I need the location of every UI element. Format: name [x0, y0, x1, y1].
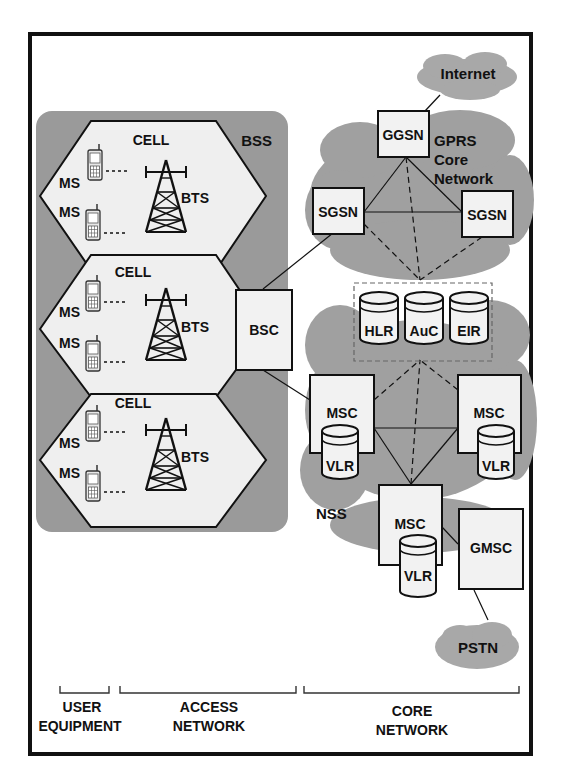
vlr-bottom-database [400, 535, 436, 597]
ms-label: MS [59, 204, 80, 220]
core-network-label-2: NETWORK [376, 722, 448, 738]
user-equipment-label-2: EQUIPMENT [38, 718, 122, 734]
gprs-label-1: GPRS [434, 132, 477, 149]
pstn-label: PSTN [458, 639, 498, 656]
ms-label: MS [59, 175, 80, 191]
internet-label: Internet [440, 65, 495, 82]
msc-right-label: MSC [473, 405, 504, 421]
vlr-bottom-label: VLR [404, 568, 432, 584]
nss-label: NSS [316, 505, 347, 522]
layer-brackets [60, 686, 519, 693]
ms-label: MS [59, 465, 80, 481]
ms-label: MS [59, 335, 80, 351]
core-network-label-1: CORE [392, 703, 432, 719]
auc-label: AuC [410, 323, 439, 339]
mobile-phone-icon [86, 204, 100, 240]
cell-label: CELL [115, 395, 152, 411]
gprs-label-2: Core [434, 151, 468, 168]
mobile-phone-icon [88, 144, 102, 180]
ms-label: MS [59, 304, 80, 320]
bts-label: BTS [181, 319, 209, 335]
ms-label: MS [59, 435, 80, 451]
hlr-label: HLR [365, 323, 394, 339]
msc-bottom-label: MSC [394, 516, 425, 532]
bss-label: BSS [241, 132, 272, 149]
vlr-right-label: VLR [482, 458, 510, 474]
bsc-label: BSC [249, 322, 279, 338]
bts-label: BTS [181, 190, 209, 206]
eir-label: EIR [457, 323, 480, 339]
ggsn-label: GGSN [382, 127, 423, 143]
mobile-phone-icon [86, 405, 100, 441]
vlr-left-label: VLR [326, 458, 354, 474]
sgsn-right-label: SGSN [467, 207, 507, 223]
access-network-label-1: ACCESS [180, 699, 238, 715]
msc-left-label: MSC [326, 405, 357, 421]
user-equipment-label-1: USER [63, 699, 102, 715]
gprs-label-3: Network [434, 170, 494, 187]
network-diagram: BSS Internet GPRS Core Network NSS PSTN [0, 0, 563, 774]
cell-label: CELL [133, 132, 170, 148]
mobile-phone-icon [86, 275, 100, 311]
sgsn-left-label: SGSN [318, 204, 358, 220]
gmsc-label: GMSC [470, 540, 512, 556]
bts-label: BTS [181, 449, 209, 465]
mobile-phone-icon [86, 335, 100, 371]
cell-label: CELL [115, 264, 152, 280]
mobile-phone-icon [86, 465, 100, 501]
access-network-label-2: NETWORK [173, 718, 245, 734]
